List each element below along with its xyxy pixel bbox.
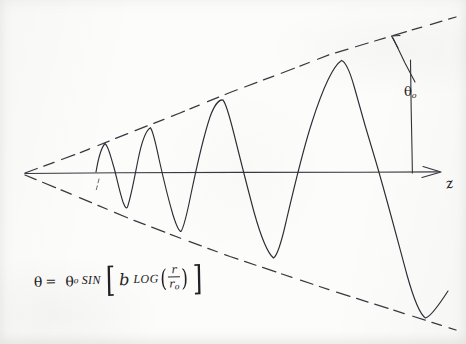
equation-ratio-numerator: r	[170, 264, 177, 276]
z-axis-line	[25, 172, 438, 174]
theta-zero-glyph: θ	[404, 84, 412, 99]
equation-coefficient-b: b	[119, 270, 130, 289]
equation-log-operator: LOG	[133, 272, 159, 287]
equation-bracket-open: [	[105, 267, 115, 294]
envelope-lower	[25, 175, 456, 330]
envelope-upper	[25, 17, 456, 173]
theta-zero-label: θo	[404, 84, 417, 100]
equation-amplitude-subscript: o	[74, 276, 79, 285]
equation-ratio-fraction: r ro	[168, 264, 181, 291]
amplitude-arrow-head	[392, 36, 401, 49]
equation-paren-open: (	[160, 269, 167, 288]
theta-zero-subscript: o	[412, 91, 417, 100]
equation-denominator-subscript: o	[175, 282, 180, 291]
equation-lhs-theta: θ	[34, 273, 43, 289]
equation-paren-close: )	[182, 269, 189, 288]
equation-amplitude-theta: θ	[65, 273, 74, 289]
equation: θ = θo SIN [ b LOG ( r ro ) ]	[34, 265, 204, 295]
equation-sin-operator: SIN	[81, 273, 100, 288]
equation-bracket-close: ]	[192, 265, 202, 292]
equation-ratio-denominator: ro	[168, 277, 180, 291]
figure-root: θo z θ = θo SIN [ b LOG ( r ro ) ]	[0, 0, 466, 344]
amplitude-arrow	[392, 36, 416, 83]
equation-equals-sign: =	[45, 274, 56, 289]
stray-tick-mark	[96, 179, 99, 191]
